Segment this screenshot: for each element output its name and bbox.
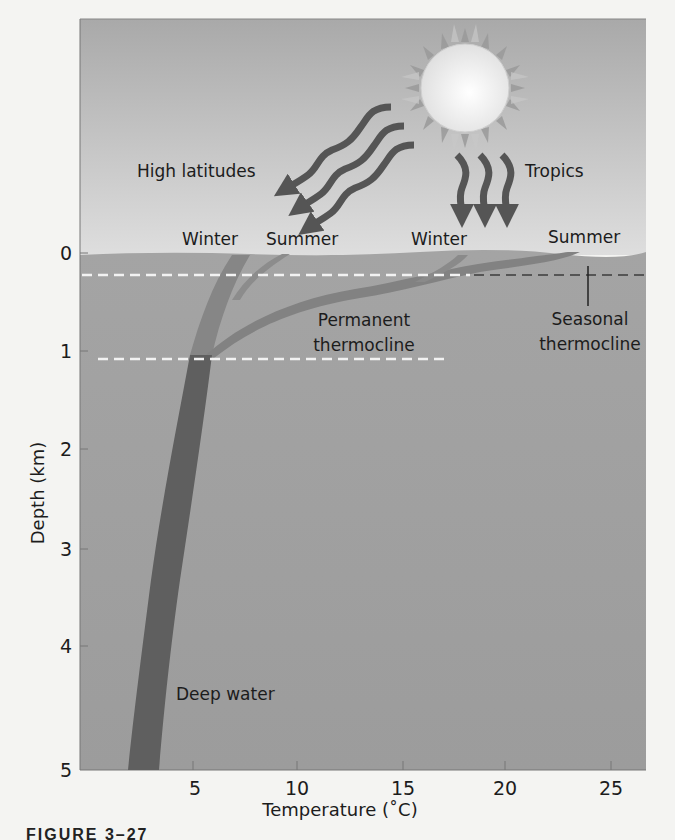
y-tick-5: 5 <box>60 759 72 781</box>
permanent-thermocline-label-line1: Permanent <box>318 310 411 330</box>
y-tick-1: 1 <box>60 340 72 362</box>
figure-caption: FIGURE 3–27 <box>26 826 148 840</box>
x-tick-5: 5 <box>189 777 201 799</box>
seasonal-thermocline-label-line1: Seasonal <box>552 309 629 329</box>
ocean-temperature-profile-figure: 0 1 2 3 4 5 5 10 15 20 25 Temperature (˚… <box>0 0 675 840</box>
x-tick-20: 20 <box>493 777 517 799</box>
x-tick-25: 25 <box>599 777 623 799</box>
permanent-thermocline-label-line2: thermocline <box>313 335 415 355</box>
seasonal-thermocline-label-line2: thermocline <box>539 334 641 354</box>
high-latitude-winter-label: Winter <box>182 229 238 249</box>
sky-area <box>80 19 646 255</box>
x-tick-10: 10 <box>285 777 309 799</box>
y-tick-2: 2 <box>60 438 72 460</box>
tropics-label: Tropics <box>524 161 584 181</box>
y-tick-4: 4 <box>60 635 72 657</box>
y-tick-0: 0 <box>60 242 72 264</box>
y-tick-3: 3 <box>60 538 72 560</box>
high-latitude-summer-label: Summer <box>266 229 338 249</box>
deep-water-label: Deep water <box>176 684 275 704</box>
tropics-summer-label: Summer <box>548 227 620 247</box>
high-latitudes-label: High latitudes <box>137 161 256 181</box>
x-tick-15: 15 <box>391 777 415 799</box>
y-axis-title: Depth (km) <box>27 442 48 545</box>
x-axis-title: Temperature (˚C) <box>261 799 417 820</box>
tropics-winter-label: Winter <box>411 229 467 249</box>
